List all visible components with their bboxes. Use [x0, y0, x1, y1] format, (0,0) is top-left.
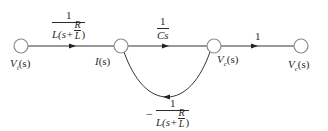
node-is — [114, 39, 128, 53]
feedback-branch — [124, 52, 210, 97]
feedback-sign: − — [146, 107, 153, 122]
label-arg: (s) — [298, 58, 310, 70]
label-main: V — [10, 57, 17, 69]
gain-label-b1: 1 L(s+ R L ) — [52, 10, 85, 45]
den-prefix: L(s+ — [52, 29, 73, 40]
inner-num: R — [74, 20, 80, 30]
inner-fraction: R L — [178, 108, 184, 129]
gain-denominator: L(s+ R L ) — [52, 23, 85, 45]
inner-fraction: R L — [74, 20, 80, 41]
node-label-vi: Vi(s) — [10, 58, 30, 72]
gain-numerator: 1 — [64, 10, 74, 22]
den-suffix: ) — [186, 117, 190, 128]
gain-denominator: L(s+ R L ) — [156, 111, 189, 131]
label-arg: (s) — [19, 57, 31, 69]
node-label-vc: Vc(s) — [217, 54, 238, 68]
inner-den: L — [75, 31, 81, 41]
den-prefix: L(s+ — [156, 117, 177, 128]
node-label-vc-output: Vc(s) — [288, 59, 309, 73]
gain-denominator: Cs — [157, 29, 169, 41]
node-vi — [14, 39, 28, 53]
gain-label-b3: 1 — [255, 31, 261, 42]
gain-numerator: 1 — [168, 98, 178, 110]
node-label-is: I(s) — [95, 56, 110, 67]
inner-den: L — [179, 119, 185, 129]
arrow-icon — [251, 44, 258, 49]
node-vc-output — [294, 39, 308, 53]
node-vc — [207, 39, 221, 53]
arrow-icon — [162, 44, 169, 49]
label-arg: (s) — [227, 53, 239, 65]
den-suffix: ) — [82, 29, 86, 40]
label-arg: (s) — [99, 55, 111, 67]
label-main: V — [288, 58, 295, 70]
gain-label-b2: 1 Cs — [157, 16, 169, 41]
gain-label-feedback: 1 L(s+ R L ) — [156, 98, 189, 131]
gain-numerator: 1 — [158, 16, 168, 28]
inner-num: R — [178, 108, 184, 118]
label-main: V — [217, 53, 224, 65]
